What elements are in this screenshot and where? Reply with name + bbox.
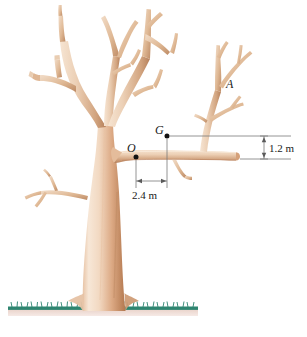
point-label-G: G <box>155 124 164 136</box>
tree-statics-figure: O G A 1.2 m 2.4 m <box>0 0 307 337</box>
left-major-limb <box>29 41 107 128</box>
dimension-label-horizontal: 2.4 m <box>132 190 157 201</box>
dimension-label-vertical: 1.2 m <box>269 143 294 154</box>
point-marker-O <box>134 155 139 160</box>
branch-A-group <box>194 41 252 152</box>
point-marker-G <box>165 134 170 139</box>
dimension-lines <box>136 136 291 188</box>
tree-illustration <box>0 0 307 337</box>
right-major-limb <box>108 9 178 127</box>
upper-left-twigs <box>58 5 65 42</box>
lower-left-branch <box>25 169 88 208</box>
point-label-A: A <box>226 78 233 90</box>
point-label-O: O <box>127 142 136 154</box>
